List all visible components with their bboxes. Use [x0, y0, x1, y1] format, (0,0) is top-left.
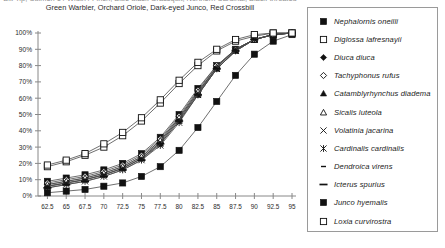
cross-x-icon: [317, 124, 330, 137]
filled-square-icon: [317, 196, 330, 209]
legend-item[interactable]: Catamblyrhynchus diadema: [308, 85, 437, 103]
series-loxia-curvirostra: [44, 30, 295, 168]
legend-item[interactable]: Icterus spurius: [308, 176, 437, 194]
legend-item-label: Loxia curvirostra: [334, 217, 391, 226]
legend-item[interactable]: Nephalornis oneilli: [308, 12, 437, 30]
legend-item[interactable]: Cardinalis cardinalis: [308, 139, 437, 157]
legend-item[interactable]: Dendroica virens: [308, 158, 437, 176]
x-tick-label: 72.5: [116, 203, 129, 210]
x-tick-label: 77.5: [154, 203, 167, 210]
y-tick-label: 70%: [19, 78, 32, 85]
x-tick-label: 92.5: [267, 203, 280, 210]
y-tick-label: 50%: [19, 111, 32, 118]
legend-item[interactable]: Sicalis luteola: [308, 103, 437, 121]
y-tick-label: 0%: [22, 192, 32, 199]
x-tick-label: 90: [251, 203, 259, 210]
legend-item[interactable]: Diuca diuca: [308, 48, 437, 66]
line-chart-svg: 0%10%20%30%40%50%60%70%80%90%100%62.5656…: [0, 0, 300, 225]
legend-item-label: Dendroica virens: [334, 162, 393, 171]
legend-item-label: Volatinia jacarina: [334, 126, 393, 135]
x-tick-label: 95: [288, 203, 296, 210]
legend-item[interactable]: Junco hyemalis: [308, 194, 437, 212]
legend-list: Nephalornis oneilliDiglossa lafresnayiiD…: [308, 12, 437, 230]
open-diamond-icon: [317, 69, 330, 82]
x-tick-label: 85: [213, 203, 221, 210]
legend-item-label: Sicalis luteola: [334, 108, 382, 117]
y-tick-label: 100%: [15, 29, 32, 36]
legend-item[interactable]: Loxia curvirostra: [308, 212, 437, 230]
x-tick-label: 65: [63, 203, 71, 210]
x-tick-label: 87.5: [229, 203, 242, 210]
x-tick-label: 70: [100, 203, 108, 210]
asterisk-icon: [317, 142, 330, 155]
chart-page: Bill Tip, Culmen 1 / Width / Finch, Blue…: [0, 0, 445, 248]
legend-item-label: Tachyphonus rufus: [334, 71, 400, 80]
x-tick-label: 75: [138, 203, 146, 210]
chart-legend: Nephalornis oneilliDiglossa lafresnayiiD…: [307, 7, 438, 232]
legend-item-label: Diuca diuca: [334, 53, 375, 62]
legend-item-label: Junco hyemalis: [334, 198, 388, 207]
x-tick-label: 67.5: [79, 203, 92, 210]
x-tick-label: 62.5: [41, 203, 54, 210]
y-tick-label: 30%: [19, 144, 32, 151]
legend-item[interactable]: Volatinia jacarina: [308, 121, 437, 139]
legend-item[interactable]: Tachyphonus rufus: [308, 67, 437, 85]
legend-item-label: Icterus spurius: [334, 180, 385, 189]
open-square-icon: [317, 33, 330, 46]
open-square-icon: [317, 215, 330, 228]
legend-item-label: Nephalornis oneilli: [334, 17, 398, 26]
legend-item[interactable]: Diglossa lafresnayii: [308, 30, 437, 48]
y-tick-label: 40%: [19, 127, 32, 134]
legend-item-label: Cardinalis cardinalis: [334, 144, 404, 153]
long-dash-icon: [317, 178, 330, 191]
filled-diamond-icon: [317, 51, 330, 64]
y-tick-label: 90%: [19, 46, 32, 53]
y-tick-label: 20%: [19, 160, 32, 167]
open-triangle-icon: [317, 106, 330, 119]
y-tick-label: 80%: [19, 62, 32, 69]
y-tick-label: 10%: [19, 176, 32, 183]
x-tick-label: 82.5: [192, 203, 205, 210]
series-icterus-spurius: [43, 33, 296, 188]
legend-item-label: Catamblyrhynchus diadema: [334, 89, 431, 98]
plot-area: 0%10%20%30%40%50%60%70%80%90%100%62.5656…: [0, 0, 300, 225]
y-tick-label: 60%: [19, 95, 32, 102]
legend-item-label: Diglossa lafresnayii: [334, 35, 401, 44]
series-junco-hyemalis: [44, 32, 295, 196]
filled-triangle-icon: [317, 87, 330, 100]
short-dash-icon: [317, 160, 330, 173]
filled-square-icon: [317, 15, 330, 28]
x-tick-label: 80: [176, 203, 184, 210]
